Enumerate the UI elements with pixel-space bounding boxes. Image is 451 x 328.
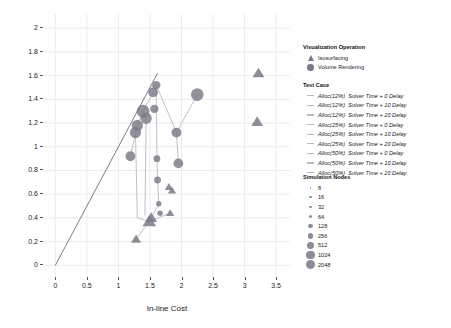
series-connector-path [143, 111, 146, 215]
line-marker-icon [303, 114, 318, 115]
triangle-marker-icon [303, 55, 318, 61]
legend-item-simulation-nodes-label: 256 [318, 233, 327, 239]
legend-item-isosurfacing-label: Isosurfacing [318, 55, 348, 61]
legend-item-test-case[interactable]: Alloc(12%) Solver Time + 20 Delay [303, 110, 406, 120]
scatter-plot-canvas [44, 14, 290, 276]
legend-item-test-case-label: Alloc(12%) Solver Time + 10 Delay [318, 102, 406, 108]
x-tick-mark [118, 277, 119, 280]
x-tick-label: 1.5 [135, 282, 165, 289]
dot-marker-icon [303, 260, 318, 270]
y-tick-mark [40, 217, 43, 218]
y-tick-label: 0 [12, 261, 38, 268]
test-case-alloc: Alloc(12%) [318, 102, 345, 108]
legend-item-test-case-label: Alloc(50%) Solver Time + 10 Delay [318, 160, 406, 166]
dot-marker-icon [303, 196, 318, 198]
legend-item-simulation-nodes[interactable]: 32 [303, 202, 350, 212]
y-tick-mark [40, 193, 43, 194]
legend-test-case: Test Case Alloc(12%) Solver Time + 0 Del… [303, 82, 406, 177]
series-connector-path [156, 85, 197, 132]
legend-item-test-case[interactable]: Alloc(50%) Solver Time + 10 Delay [303, 158, 406, 168]
y-tick-label: 2 [12, 24, 38, 31]
legend-item-test-case-label: Alloc(12%) Solver Time + 0 Delay [318, 93, 403, 99]
chart-root: In-transit Cost In-line Cost 00.20.40.60… [0, 0, 451, 328]
y-tick-mark [40, 51, 43, 52]
y-tick-label: 0.8 [12, 166, 38, 173]
data-point-volume-rendering[interactable] [126, 151, 136, 161]
legend-item-simulation-nodes[interactable]: 512 [303, 241, 350, 251]
legend-item-isosurfacing[interactable]: Isosurfacing [303, 53, 365, 63]
x-tick-mark [87, 277, 88, 280]
test-case-detail: Solver Time + 20 Delay [345, 170, 406, 176]
legend-simulation-nodes-title: Simulation Nodes [303, 174, 350, 180]
data-point-volume-rendering[interactable] [152, 81, 160, 89]
y-tick-mark [40, 27, 43, 28]
legend-item-simulation-nodes[interactable]: 128 [303, 221, 350, 231]
line-marker-icon [303, 162, 318, 163]
legend-item-test-case[interactable]: Alloc(25%) Solver Time + 0 Delay [303, 120, 406, 130]
data-point-isosurfacing[interactable] [131, 234, 141, 242]
data-point-isosurfacing[interactable] [251, 116, 263, 126]
legend-item-test-case[interactable]: Alloc(25%) Solver Time + 20 Delay [303, 139, 406, 149]
dot-marker-icon [303, 242, 318, 249]
x-axis-title: In-line Cost [44, 304, 290, 313]
legend-item-simulation-nodes-label: 8 [318, 185, 321, 191]
legend-item-test-case-label: Alloc(25%) Solver Time + 10 Delay [318, 131, 406, 137]
x-tick-mark [213, 277, 214, 280]
x-tick-label: 2.5 [198, 282, 228, 289]
y-tick-label: 1.4 [12, 95, 38, 102]
legend-item-test-case[interactable]: Alloc(12%) Solver Time + 0 Delay [303, 91, 406, 101]
test-case-detail: Solver Time + 10 Delay [345, 160, 406, 166]
legend-item-test-case-label: Alloc(12%) Solver Time + 20 Delay [318, 112, 406, 118]
data-point-volume-rendering[interactable] [173, 158, 183, 168]
y-tick-mark [40, 122, 43, 123]
data-point-volume-rendering[interactable] [141, 113, 152, 124]
line-marker-icon [303, 105, 318, 106]
data-point-isosurfacing[interactable] [145, 212, 157, 222]
data-point-isosurfacing[interactable] [253, 68, 265, 78]
line-marker-icon [303, 172, 318, 173]
test-case-detail: Solver Time + 10 Delay [345, 131, 406, 137]
legend-item-simulation-nodes[interactable]: 1024 [303, 250, 350, 260]
test-case-detail: Solver Time + 10 Delay [345, 102, 406, 108]
legend-item-simulation-nodes-label: 512 [318, 242, 327, 248]
data-point-isosurfacing[interactable] [166, 209, 174, 216]
data-point-volume-rendering[interactable] [191, 88, 204, 101]
legend-item-simulation-nodes[interactable]: 256 [303, 231, 350, 241]
y-tick-label: 0.6 [12, 190, 38, 197]
test-case-alloc: Alloc(25%) [318, 122, 345, 128]
x-tick-label: 0.5 [72, 282, 102, 289]
legend-item-test-case[interactable]: Alloc(12%) Solver Time + 10 Delay [303, 101, 406, 111]
data-point-volume-rendering[interactable] [172, 128, 182, 138]
data-point-volume-rendering[interactable] [153, 155, 160, 162]
x-tick-label: 1 [103, 282, 133, 289]
y-tick-label: 1 [12, 143, 38, 150]
y-tick-mark [40, 98, 43, 99]
data-point-volume-rendering[interactable] [157, 210, 162, 215]
test-case-alloc: Alloc(50%) [318, 160, 345, 166]
series-connector-path [135, 133, 149, 222]
legend-item-simulation-nodes[interactable]: 16 [303, 193, 350, 203]
legend-item-simulation-nodes[interactable]: 8 [303, 183, 350, 193]
test-case-detail: Solver Time + 0 Delay [345, 122, 403, 128]
legend-item-test-case[interactable]: Alloc(25%) Solver Time + 10 Delay [303, 129, 406, 139]
x-tick-mark [276, 277, 277, 280]
data-point-volume-rendering[interactable] [132, 120, 143, 131]
legend-item-test-case[interactable]: Alloc(50%) Solver Time + 0 Delay [303, 149, 406, 159]
legend-item-test-case-label: Alloc(25%) Solver Time + 20 Delay [318, 141, 406, 147]
y-tick-label: 1.2 [12, 119, 38, 126]
legend-item-volume-rendering[interactable]: Volume Rendering [303, 63, 365, 73]
legend-item-test-case-label: Alloc(25%) Solver Time + 0 Delay [318, 122, 403, 128]
y-tick-mark [40, 75, 43, 76]
test-case-alloc: Alloc(12%) [318, 112, 345, 118]
legend-item-test-case-label: Alloc(50%) Solver Time + 0 Delay [318, 150, 403, 156]
y-tick-label: 0.2 [12, 238, 38, 245]
line-marker-icon [303, 95, 318, 96]
data-point-volume-rendering[interactable] [154, 177, 161, 184]
legend-test-case-title: Test Case [303, 82, 406, 88]
y-tick-mark [40, 146, 43, 147]
legend-item-simulation-nodes[interactable]: 2048 [303, 260, 350, 270]
data-point-volume-rendering[interactable] [156, 201, 161, 206]
dot-marker-icon [303, 251, 318, 259]
legend-item-simulation-nodes[interactable]: 64 [303, 212, 350, 222]
data-point-volume-rendering[interactable] [150, 105, 158, 113]
